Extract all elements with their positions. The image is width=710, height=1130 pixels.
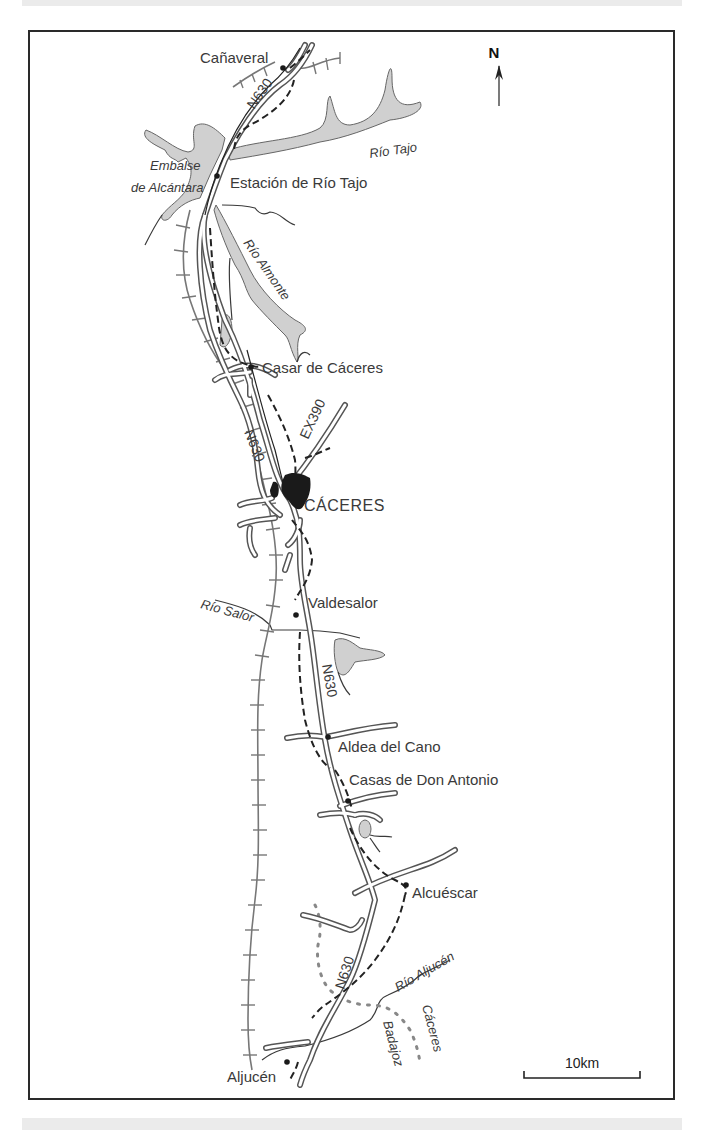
caceres-city-west: [270, 482, 279, 498]
label-rio-tajo: Río Tajo: [368, 139, 418, 161]
scale-label: 10km: [565, 1055, 599, 1071]
town-dot-aljucen: [284, 1059, 290, 1065]
water-labels: Embalse de Alcántara Río Tajo Río Almont…: [131, 139, 457, 994]
scale-bar: 10km: [524, 1055, 640, 1078]
label-rio-salor: Río Salor: [199, 596, 256, 625]
town-dot-alcuescar: [403, 882, 409, 888]
roads: [200, 45, 455, 1085]
route-map: Cañaveral Estación de Río Tajo Casar de …: [0, 0, 710, 1130]
bottom-border-strip: [22, 1118, 682, 1130]
label-embalse: Embalse: [150, 158, 201, 173]
label-canaveral: Cañaveral: [200, 49, 268, 66]
town-dot-casas: [345, 798, 351, 804]
label-de-alcantara: de Alcántara: [131, 180, 204, 195]
town-dot-estacion: [214, 173, 220, 179]
label-valdesalor: Valdesalor: [308, 594, 378, 611]
label-aljucen: Aljucén: [227, 1068, 276, 1085]
town-dot-valdesalor: [293, 612, 299, 618]
lake-don-antonio: [359, 820, 371, 838]
label-alcuescar: Alcuéscar: [412, 884, 478, 901]
label-aldea-del-cano: Aldea del Cano: [338, 738, 441, 755]
lake-valdesalor: [334, 639, 385, 675]
label-casas-de-don-antonio: Casas de Don Antonio: [349, 771, 498, 788]
north-arrow: N: [489, 44, 503, 106]
label-caceres: CÁCERES: [304, 496, 385, 514]
label-caceres-province: Cáceres: [419, 1003, 446, 1054]
town-dot-casar: [248, 364, 254, 370]
label-estacion-rio-tajo: Estación de Río Tajo: [230, 174, 367, 191]
town-dot-canaveral: [280, 65, 286, 71]
label-rio-aljucen: Río Aljucén: [392, 949, 457, 995]
north-label: N: [489, 44, 500, 61]
camino-route: [210, 50, 406, 1080]
label-badajoz-province: Badajoz: [380, 1019, 407, 1069]
town-dot-aldea: [325, 734, 331, 740]
label-casar-de-caceres: Casar de Cáceres: [262, 359, 383, 376]
